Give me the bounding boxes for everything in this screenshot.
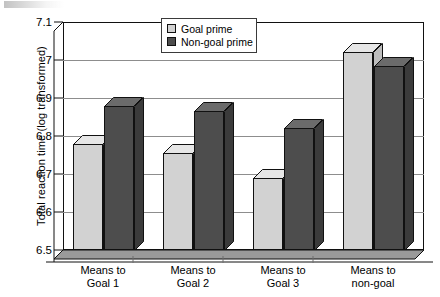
bar-group	[343, 22, 411, 250]
bar-side-face	[404, 66, 413, 250]
bar-top-face	[343, 43, 373, 52]
x-axis-category-labels: Means to Goal 1 Means to Goal 2 Means to…	[63, 264, 424, 296]
bar-non-goal-prime	[374, 66, 404, 250]
bar-top-face	[374, 57, 404, 66]
plot-area: Goal prime Non-goal prime	[63, 22, 424, 250]
bar-front-face	[374, 66, 404, 250]
bar-goal-prime	[73, 144, 103, 250]
legend-item-non-goal-prime: Non-goal prime	[167, 35, 251, 48]
bar-front-face	[73, 144, 103, 250]
bar-series-container	[63, 22, 424, 250]
bar-top-face	[253, 169, 283, 178]
y-axis-tick-labels: 7.1 7 6.9 6.8 6.7 6.6 6.5	[22, 0, 52, 297]
x-category-label: Means to Goal 3	[238, 264, 328, 290]
legend: Goal prime Non-goal prime	[161, 18, 257, 53]
bar-front-face	[343, 52, 373, 250]
bar-non-goal-prime	[194, 111, 224, 250]
bar-front-face	[104, 106, 134, 250]
bar-group	[73, 22, 141, 250]
x-category-label: Means to Goal 2	[148, 264, 238, 290]
y-tick-label: 7	[24, 54, 52, 66]
legend-label: Non-goal prime	[181, 36, 253, 48]
bar-top-face	[104, 97, 134, 106]
bar-front-face	[253, 178, 283, 250]
x-category-label: Means to Goal 1	[58, 264, 148, 290]
x-category-label: Means to non-goal	[328, 264, 418, 290]
bar-side-face	[134, 106, 143, 250]
x-category-line: Means to	[328, 264, 418, 277]
x-category-line: Goal 1	[58, 277, 148, 290]
legend-item-goal-prime: Goal prime	[167, 22, 251, 35]
bar-side-face	[314, 128, 323, 250]
bar-top-face	[73, 135, 103, 144]
bar-side-face	[224, 111, 233, 250]
y-tick-label: 6.9	[24, 92, 52, 104]
x-category-line: Means to	[238, 264, 328, 277]
legend-swatch-icon	[167, 24, 176, 33]
x-category-line: Means to	[148, 264, 238, 277]
x-category-line: Goal 2	[148, 277, 238, 290]
x-category-line: Goal 3	[238, 277, 328, 290]
bar-goal-prime	[253, 178, 283, 250]
bar-group	[163, 22, 231, 250]
y-tick-label: 6.8	[24, 130, 52, 142]
bar-goal-prime	[343, 52, 373, 250]
bar-non-goal-prime	[104, 106, 134, 250]
x-category-line: non-goal	[328, 277, 418, 290]
bar-goal-prime	[163, 153, 193, 250]
y-tick-label: 6.6	[24, 206, 52, 218]
legend-swatch-icon	[167, 37, 176, 46]
chart-figure: Total reaction time (log transformed) 7.…	[0, 0, 440, 297]
bar-top-face	[194, 102, 224, 111]
bar-top-face	[163, 144, 193, 153]
bar-non-goal-prime	[284, 128, 314, 250]
legend-label: Goal prime	[181, 23, 232, 35]
bar-top-face	[284, 119, 314, 128]
x-category-line: Means to	[58, 264, 148, 277]
y-tick-label: 6.5	[24, 244, 52, 256]
y-tick-label: 6.7	[24, 168, 52, 180]
bar-front-face	[194, 111, 224, 250]
bar-group	[253, 22, 321, 250]
bar-front-face	[284, 128, 314, 250]
bar-front-face	[163, 153, 193, 250]
y-tick-label: 7.1	[24, 16, 52, 28]
